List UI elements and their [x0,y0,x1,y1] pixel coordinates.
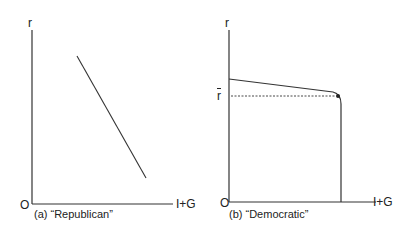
panel-b [229,30,376,202]
panel-b-kink-point [336,94,340,98]
panel-a-origin-label: O [20,199,29,211]
panel-a-x-label: I+G [176,198,196,210]
panel-b-curve [229,79,341,202]
panel-b-r-bar-label: r [217,90,221,102]
panel-b-y-label: r [225,17,229,29]
panel-a [32,30,173,204]
panel-b-x-label: I+G [373,196,393,208]
panel-b-origin-label: O [220,197,229,209]
panel-a-caption: (a) “Republican” [34,209,113,220]
diagram-canvas [0,0,415,232]
panel-b-caption: (b) “Democratic” [229,209,308,220]
panel-a-curve [77,56,146,178]
panel-a-y-label: r [28,17,32,29]
